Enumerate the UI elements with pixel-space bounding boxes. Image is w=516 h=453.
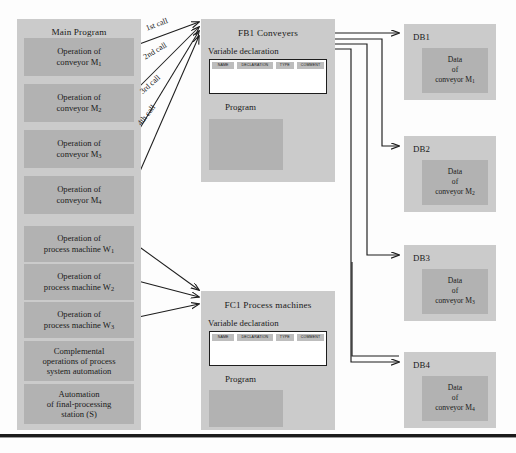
db4-title: DB4 [413, 360, 430, 370]
db1-line2: of [452, 65, 458, 75]
mp-item-line1: Automation [58, 389, 99, 399]
line-fc1-down [352, 262, 399, 356]
mp-item-line1: Complemental [54, 346, 105, 356]
fb1-variable-table-header-row: NAME DECLARATION TYPE COMMENT [210, 60, 326, 69]
mp-item-line2: conveyor M4 [57, 195, 102, 206]
db2-line2: of [452, 177, 458, 187]
db4-line3: conveyor M4 [435, 403, 475, 414]
db4-content: Data of conveyor M4 [422, 376, 488, 421]
mp-item-conveyor-m1[interactable]: Operation of conveyor M1 [24, 38, 134, 76]
fb1-block[interactable]: FB1 Conveyers Variable declaration NAME … [201, 19, 335, 182]
call-label-1st: 1st call [144, 16, 169, 33]
mp-item-line1: Operation of [57, 138, 101, 148]
db3-title: DB3 [413, 253, 430, 263]
db3-block[interactable]: DB3 Data of conveyor M3 [404, 245, 496, 321]
mp-item-line3: station (S) [61, 409, 97, 419]
call-arrows-fc1 [134, 243, 199, 318]
db3-line2: of [452, 286, 458, 296]
main-program-title: Main Program [17, 27, 141, 37]
mp-item-line2: process machine W2 [44, 282, 114, 293]
mp-item-line2: conveyor M2 [57, 103, 102, 114]
db4-block[interactable]: DB4 Data of conveyor M4 [404, 352, 496, 428]
fc1-col-name: NAME [212, 334, 234, 341]
db1-line1: Data [448, 55, 462, 65]
fc1-variable-table-header-row: NAME DECLARATION TYPE COMMENT [210, 332, 326, 341]
fc1-program-area[interactable] [209, 390, 283, 427]
fc1-variable-table[interactable]: NAME DECLARATION TYPE COMMENT [209, 331, 327, 366]
fb1-variable-table[interactable]: NAME DECLARATION TYPE COMMENT [209, 59, 327, 94]
call-label-2nd: 2nd call [142, 40, 169, 61]
fb1-col-type: TYPE [276, 62, 295, 69]
db2-content: Data of conveyor M2 [422, 160, 488, 205]
line-to-db2 [335, 39, 399, 146]
mp-item-line2: conveyor M3 [57, 149, 102, 160]
db1-line3: conveyor M1 [435, 75, 475, 86]
mp-item-line1: Operation of [57, 271, 101, 281]
line-to-db3 [335, 44, 399, 255]
db2-line1: Data [448, 167, 462, 177]
db2-block[interactable]: DB2 Data of conveyor M2 [404, 136, 496, 212]
db4-line1: Data [448, 383, 462, 393]
fb1-col-declaration: DECLARATION [237, 62, 272, 69]
mp-item-line2: operations of process [42, 356, 115, 366]
db3-content: Data of conveyor M3 [422, 269, 488, 314]
db1-content: Data of conveyor M1 [422, 48, 488, 93]
fb1-col-name: NAME [212, 62, 234, 69]
mp-item-process-machine-w1[interactable]: Operation of process machine W1 [24, 226, 134, 262]
fb1-program-label: Program [225, 102, 256, 112]
mp-item-line1: Operation of [57, 233, 101, 243]
fc1-block[interactable]: FC1 Process machines Variable declaratio… [201, 291, 335, 430]
bottom-divider-shadow [0, 437, 516, 438]
mp-item-complemental-operations[interactable]: Complemental operations of process syste… [24, 341, 134, 381]
db2-title: DB2 [413, 144, 430, 154]
fc1-col-comment: COMMENT [297, 334, 324, 341]
mp-item-conveyor-m3[interactable]: Operation of conveyor M3 [24, 130, 134, 168]
mp-item-conveyor-m2[interactable]: Operation of conveyor M2 [24, 84, 134, 122]
mp-item-process-machine-w2[interactable]: Operation of process machine W2 [24, 264, 134, 300]
mp-item-process-machine-w3[interactable]: Operation of process machine W3 [24, 302, 134, 338]
fc1-variable-declaration-label: Variable declaration [208, 318, 279, 328]
line-to-db4 [335, 49, 399, 362]
fb1-to-db-lines [335, 33, 399, 362]
fb1-program-area[interactable] [209, 119, 283, 170]
mp-item-line1: Operation of [57, 46, 101, 56]
fc1-title: FC1 Process machines [201, 300, 335, 310]
db1-block[interactable]: DB1 Data of conveyor M1 [404, 24, 496, 100]
fc1-col-type: TYPE [276, 334, 295, 341]
mp-item-line3: system automation [47, 366, 112, 376]
mp-item-line1: Operation of [57, 184, 101, 194]
mp-item-final-processing-station[interactable]: Automation of final-processing station (… [24, 384, 134, 424]
mp-item-line2: of final-processing [47, 399, 112, 409]
db1-title: DB1 [413, 32, 430, 42]
db4-line2: of [452, 393, 458, 403]
fb1-variable-declaration-label: Variable declaration [208, 46, 279, 56]
mp-item-line2: process machine W3 [44, 320, 114, 331]
fb1-col-comment: COMMENT [297, 62, 324, 69]
db2-line3: conveyor M2 [435, 187, 475, 198]
db3-line3: conveyor M3 [435, 296, 475, 307]
mp-item-line1: Operation of [57, 309, 101, 319]
db3-line1: Data [448, 276, 462, 286]
mp-item-line1: Operation of [57, 92, 101, 102]
fc1-col-declaration: DECLARATION [237, 334, 272, 341]
mp-item-line2: conveyor M1 [57, 57, 102, 68]
mp-item-line2: process machine W1 [44, 244, 114, 255]
mp-item-conveyor-m4[interactable]: Operation of conveyor M4 [24, 176, 134, 214]
fc1-program-label: Program [225, 374, 256, 384]
fb1-title: FB1 Conveyers [201, 28, 335, 38]
fc1-to-db-line [352, 262, 399, 356]
call-label-3rd: 3rd call [138, 73, 162, 96]
diagram-canvas: Main Program Operation of conveyor M1 Op… [0, 0, 516, 453]
